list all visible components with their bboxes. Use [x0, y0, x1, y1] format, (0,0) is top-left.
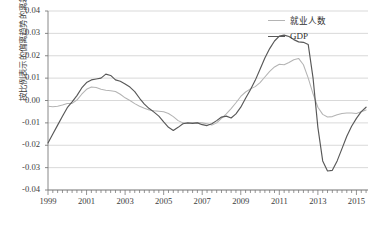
legend-swatch-employment-icon — [268, 20, 285, 21]
x-tick-label: 2003 — [117, 196, 134, 206]
x-tick-label: 2009 — [232, 196, 249, 206]
x-tick-label: 2013 — [309, 196, 326, 206]
chart-figure: 按比例表示的偏离趋势的离差 0.040.030.020.010.00-0.01-… — [0, 0, 374, 229]
legend-label-employment: 就业人数 — [290, 14, 326, 26]
x-axis-tick-labels: 199920012003200520072009201120132015 — [0, 196, 374, 210]
legend-swatch-gdp-icon — [268, 36, 285, 37]
legend-item-employment[interactable]: 就业人数 — [268, 12, 372, 28]
chart-legend: 就业人数 GDP — [268, 12, 372, 44]
series-line-employment — [48, 58, 366, 125]
x-tick-label: 2011 — [271, 196, 288, 206]
x-tick-label: 2007 — [194, 196, 211, 206]
x-tick-label: 2005 — [155, 196, 172, 206]
x-tick-label: 2001 — [78, 196, 95, 206]
legend-item-gdp[interactable]: GDP — [268, 28, 372, 44]
x-tick-label: 2015 — [348, 196, 365, 206]
legend-label-gdp: GDP — [290, 31, 308, 41]
x-tick-label: 1999 — [39, 196, 56, 206]
